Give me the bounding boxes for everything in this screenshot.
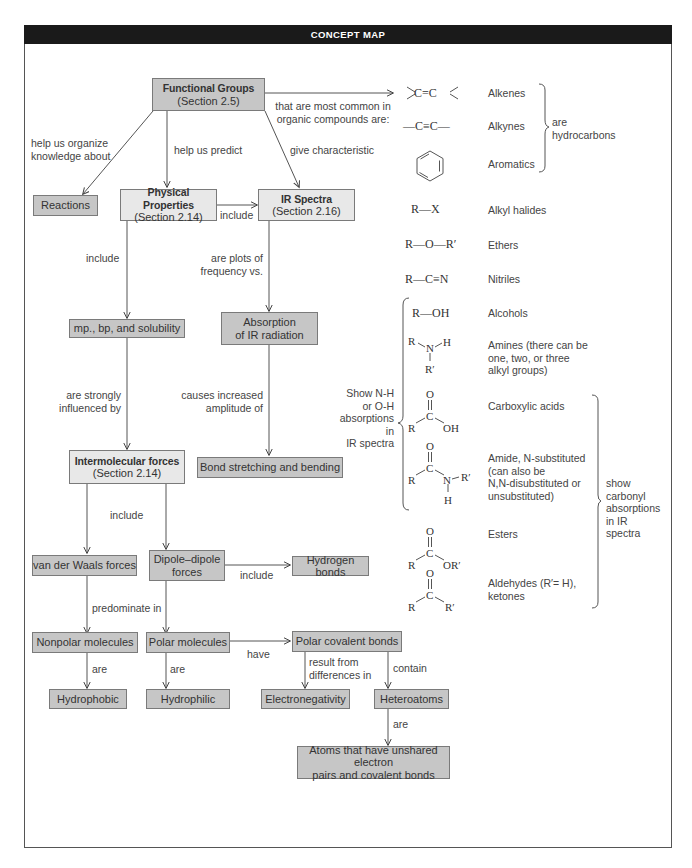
- formula-carboxylic-acid: OH: [443, 422, 459, 435]
- note-line: absorptions: [606, 502, 660, 515]
- link-label-characteristic: give characteristic: [290, 144, 374, 157]
- formula-amide: R: [408, 474, 415, 487]
- node-label: Hydrogen bonds: [293, 554, 368, 579]
- formula-amide: O: [426, 440, 434, 453]
- name-line: N,N-disubstituted or: [488, 477, 585, 490]
- name-line: unsubstituted): [488, 490, 585, 503]
- node-hydrogen-bonds: Hydrogen bonds: [292, 556, 369, 576]
- node-label-line: pairs and covalent bonds: [312, 769, 434, 782]
- formula-amine: R′: [425, 363, 435, 376]
- link-label-are-nonpolar: are: [92, 663, 107, 676]
- node-label: Hydrophilic: [161, 693, 215, 706]
- group-name-carboxylic-acids: Carboxylic acids: [488, 400, 564, 413]
- group-name-ethers: Ethers: [488, 239, 518, 252]
- note-line: are: [552, 116, 616, 129]
- name-line: Amines (there can be: [488, 339, 588, 352]
- formula-ketone: C: [426, 589, 433, 602]
- node-label: Heteroatoms: [380, 693, 443, 706]
- formula-amine: R: [408, 335, 415, 348]
- note-line: spectra: [606, 527, 660, 540]
- formula-amide: R′: [461, 471, 471, 484]
- formula-alcohol: R—OH: [412, 307, 449, 320]
- node-label: van der Waals forces: [33, 559, 136, 572]
- group-name-alkynes: Alkynes: [488, 120, 525, 133]
- link-label-predict: help us predict: [174, 144, 242, 157]
- note-line: in: [330, 425, 394, 438]
- hydrocarbons-note: are hydrocarbons: [552, 116, 616, 141]
- note-line: or O-H: [330, 400, 394, 413]
- group-name-amide: Amide, N-substituted (can also be N,N-di…: [488, 452, 585, 502]
- node-label-line: Absorption: [243, 316, 296, 329]
- node-title: Physical Properties: [121, 186, 216, 211]
- node-label: Hydrophobic: [57, 693, 119, 706]
- node-label-line: Atoms that have unshared electron: [298, 744, 449, 769]
- node-polar-molecules: Polar molecules: [146, 632, 230, 653]
- link-label-include-mp: include: [86, 252, 119, 265]
- node-label: Reactions: [41, 199, 90, 212]
- note-line: hydrocarbons: [552, 129, 616, 142]
- note-line: carbonyl: [606, 490, 660, 503]
- nh-oh-absorption-note: Show N-H or O-H absorptions in IR spectr…: [330, 387, 394, 450]
- group-name-nitriles: Nitriles: [488, 273, 520, 286]
- note-line: IR spectra: [330, 437, 394, 450]
- node-dipole-dipole: Dipole–dipole forces: [149, 550, 225, 581]
- node-label-line: of IR radiation: [235, 329, 303, 342]
- group-name-amines: Amines (there can be one, two, or three …: [488, 339, 588, 377]
- group-name-esters: Esters: [488, 528, 518, 541]
- link-label-line: amplitude of: [170, 402, 263, 415]
- link-label-most-common: that are most common in organic compound…: [271, 100, 395, 125]
- node-electronegativity: Electronegativity: [261, 689, 350, 709]
- name-line: Amide, N-substituted: [488, 452, 585, 465]
- link-label-organize: help us organize knowledge about: [31, 137, 110, 162]
- link-label-line: are strongly: [40, 389, 121, 402]
- name-line-text: Amide, N-substituted: [488, 452, 585, 464]
- link-label-line: organic compounds are:: [271, 113, 395, 126]
- formula-alkyl-halide: R—X: [411, 203, 440, 216]
- formula-alkyne: —C≡C—: [403, 120, 450, 133]
- formula-ester: C: [426, 547, 433, 560]
- node-polar-covalent-bonds: Polar covalent bonds: [292, 631, 402, 652]
- node-reactions: Reactions: [33, 195, 98, 216]
- link-label-line: result from: [309, 656, 371, 669]
- link-label-result-from: result from differences in: [309, 656, 371, 681]
- formula-ester: OR′: [443, 559, 461, 572]
- node-mp-bp-solubility: mp., bp, and solubility: [69, 319, 185, 338]
- formula-amide: H: [444, 494, 452, 507]
- node-section: (Section 2.16): [272, 205, 340, 218]
- formula-amine: H: [443, 336, 451, 349]
- link-label-line: causes increased: [170, 389, 263, 402]
- node-title: IR Spectra: [281, 193, 332, 206]
- link-label-line: knowledge about: [31, 150, 110, 163]
- name-line: Aldehydes (R′= H),: [488, 577, 576, 590]
- node-functional-groups: Functional Groups (Section 2.5): [152, 78, 265, 111]
- link-label-line: that are most common in: [271, 100, 395, 113]
- formula-ketone: R: [408, 601, 415, 614]
- formula-ether: R—O—R′: [405, 238, 456, 251]
- group-name-alkenes: Alkenes: [488, 87, 525, 100]
- link-label-contain: contain: [393, 662, 427, 675]
- formula-carboxylic-acid: C: [426, 410, 433, 423]
- node-label: Nonpolar molecules: [36, 636, 133, 649]
- node-intermolecular-forces: Intermolecular forces (Section 2.14): [69, 450, 185, 484]
- link-label-predominate: predominate in: [92, 602, 161, 615]
- node-title: Functional Groups: [163, 82, 255, 95]
- formula-amine: N: [426, 342, 434, 355]
- formula-ketone: R′: [445, 601, 455, 614]
- node-label: Electronegativity: [265, 693, 346, 706]
- node-heteroatoms: Heteroatoms: [374, 689, 449, 709]
- formula-ketone: O: [426, 567, 434, 580]
- node-section: (Section 2.5): [177, 95, 239, 108]
- note-line: Show N-H: [330, 387, 394, 400]
- link-label-are-polar: are: [170, 663, 185, 676]
- name-line: one, two, or three: [488, 352, 588, 365]
- node-hydrophilic: Hydrophilic: [146, 689, 230, 709]
- node-label: Polar molecules: [149, 636, 227, 649]
- node-absorption-ir: Absorption of IR radiation: [221, 312, 318, 345]
- link-label-influenced-by: are strongly influenced by: [40, 389, 121, 414]
- link-label-line: influenced by: [40, 402, 121, 415]
- group-name-alcohols: Alcohols: [488, 307, 528, 320]
- note-line: absorptions: [330, 412, 394, 425]
- name-line: (can also be: [488, 465, 585, 478]
- node-atoms-unshared-electrons: Atoms that have unshared electron pairs …: [297, 746, 450, 779]
- link-label-line: frequency vs.: [190, 265, 263, 278]
